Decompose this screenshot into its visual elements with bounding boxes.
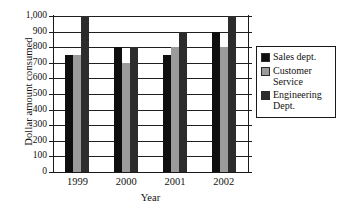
y-axis-tick-label: 400 xyxy=(33,105,47,115)
legend-swatch-icon xyxy=(261,91,270,100)
legend-item-label: Customer Service xyxy=(273,66,312,88)
bar-1999-series-1 xyxy=(65,55,73,172)
x-axis-tick-label: 2000 xyxy=(116,176,137,187)
bar-2001-series-2 xyxy=(171,47,179,172)
bar-1999-series-2 xyxy=(73,55,81,172)
bar-group-2001 xyxy=(163,16,187,172)
y-axis-tick xyxy=(49,156,53,157)
bar-2002-series-3 xyxy=(228,16,236,172)
y-axis-tick xyxy=(49,172,53,173)
plot-area: 01002003004005006007008009001,0001999200… xyxy=(53,16,248,172)
bar-2002-series-1 xyxy=(212,32,220,172)
legend-item-3: Engineering Dept. xyxy=(261,90,331,112)
y-axis-tick xyxy=(49,94,53,95)
y-axis-tick-right xyxy=(248,63,252,64)
y-axis-tick-right xyxy=(248,32,252,33)
y-axis-tick-right xyxy=(248,141,252,142)
y-axis-tick xyxy=(49,47,53,48)
y-axis-tick-label: 1,000 xyxy=(26,11,47,21)
y-axis-tick-right xyxy=(248,78,252,79)
y-axis-tick xyxy=(49,125,53,126)
y-axis-tick-label: 300 xyxy=(33,120,47,130)
bar-group-1999 xyxy=(65,16,89,172)
y-axis-tick xyxy=(49,110,53,111)
legend-item-label: Engineering Dept. xyxy=(273,90,322,112)
y-axis-tick-label: 900 xyxy=(33,27,47,37)
legend-item-1: Sales dept. xyxy=(261,52,331,63)
bar-2000-series-2 xyxy=(122,63,130,172)
y-axis-tick xyxy=(49,16,53,17)
bar-2000-series-1 xyxy=(114,47,122,172)
y-axis-tick-label: 600 xyxy=(33,74,47,84)
y-axis-tick-right xyxy=(248,94,252,95)
y-axis-tick xyxy=(49,78,53,79)
y-axis-tick-right xyxy=(248,172,252,173)
bar-1999-series-3 xyxy=(81,16,89,172)
bar-2002-series-2 xyxy=(220,47,228,172)
x-axis-tick-label: 1999 xyxy=(67,176,88,187)
y-axis-tick-label: 200 xyxy=(33,136,47,146)
x-axis-title: Year xyxy=(53,192,248,203)
bar-group-2002 xyxy=(212,16,236,172)
y-axis-tick-label: 100 xyxy=(33,152,47,162)
y-axis-tick-label: 0 xyxy=(42,167,47,177)
x-axis-line xyxy=(49,172,249,173)
x-axis-tick-label: 2001 xyxy=(164,176,185,187)
y-axis-tick-right xyxy=(248,125,252,126)
y-axis-tick-right xyxy=(248,110,252,111)
y-axis-tick-label: 500 xyxy=(33,89,47,99)
y-axis-tick xyxy=(49,63,53,64)
y-axis-tick xyxy=(49,141,53,142)
bar-2001-series-3 xyxy=(179,32,187,172)
y-axis-tick-right xyxy=(248,47,252,48)
bar-chart: Dollar amount consumed 01002003004005006… xyxy=(0,0,343,215)
legend-swatch-icon xyxy=(261,53,270,62)
y-axis-tick-right xyxy=(248,16,252,17)
y-axis-tick-right xyxy=(248,156,252,157)
legend-item-label: Sales dept. xyxy=(273,52,316,63)
bar-2001-series-1 xyxy=(163,55,171,172)
legend-item-2: Customer Service xyxy=(261,66,331,88)
y-axis-tick-label: 700 xyxy=(33,58,47,68)
y-axis-tick xyxy=(49,32,53,33)
chart-legend: Sales dept.Customer ServiceEngineering D… xyxy=(256,46,336,118)
bar-2000-series-3 xyxy=(130,47,138,172)
bar-group-2000 xyxy=(114,16,138,172)
y-axis-tick-label: 800 xyxy=(33,42,47,52)
x-axis-tick-label: 2002 xyxy=(213,176,234,187)
legend-swatch-icon xyxy=(261,67,270,76)
